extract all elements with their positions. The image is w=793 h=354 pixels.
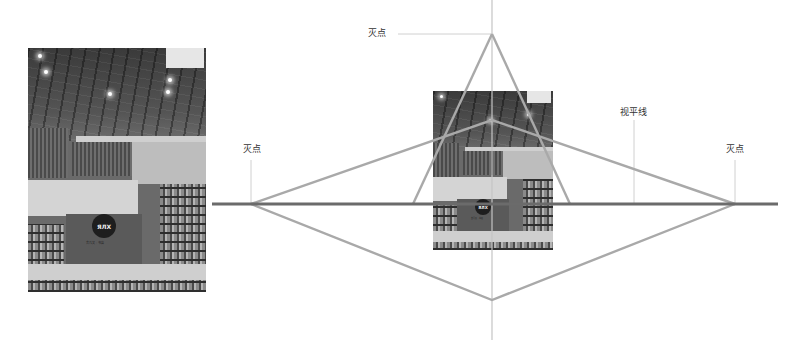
label-vanishing-point-right: 灭点 <box>726 145 744 154</box>
top-vp-line-left <box>413 34 492 204</box>
perspective-lines <box>0 0 793 354</box>
lower-perspective-lines <box>251 204 735 300</box>
label-horizon-line: 视平线 <box>620 108 647 117</box>
label-vanishing-point-left: 灭点 <box>243 145 261 154</box>
upper-perspective-lines <box>251 120 735 204</box>
top-vp-line-right <box>492 34 570 204</box>
label-vanishing-point-top: 灭点 <box>368 29 386 38</box>
